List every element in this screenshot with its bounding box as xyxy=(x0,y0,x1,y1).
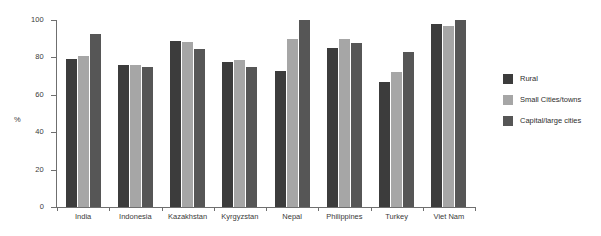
legend-item[interactable]: Rural xyxy=(503,68,599,89)
x-axis-tick xyxy=(318,207,319,211)
x-axis-tick xyxy=(162,207,163,211)
bar xyxy=(234,60,245,207)
bar xyxy=(66,59,77,207)
y-axis-tick-label: 40 xyxy=(0,128,44,136)
bar-chart: % 020406080100 IndiaIndonesiaKazakhstanK… xyxy=(0,0,601,236)
y-axis-tick-label: 80 xyxy=(0,53,44,61)
x-axis-tick xyxy=(423,207,424,211)
x-axis-tick-label: Kazakhstan xyxy=(162,212,214,221)
y-axis-tick-label: 20 xyxy=(0,166,44,174)
bar xyxy=(90,34,101,207)
bar xyxy=(78,56,89,207)
x-axis-tick xyxy=(109,207,110,211)
y-axis-title: % xyxy=(14,115,21,124)
bar-group xyxy=(57,20,109,207)
legend-item-label: Rural xyxy=(520,74,538,83)
bar-group xyxy=(423,20,475,207)
bar xyxy=(182,42,193,207)
bar xyxy=(327,48,338,207)
bar-group xyxy=(162,20,214,207)
bar xyxy=(130,65,141,207)
x-axis-tick-label: Philippines xyxy=(318,212,370,221)
x-axis-tick-label: Viet Nam xyxy=(423,212,475,221)
bar xyxy=(431,24,442,207)
legend-swatch-icon xyxy=(503,116,513,126)
legend-swatch-icon xyxy=(503,95,513,105)
x-axis-tick xyxy=(475,207,476,211)
bar xyxy=(194,49,205,207)
x-axis-tick xyxy=(266,207,267,211)
bar xyxy=(222,62,233,207)
y-axis-tick-label: 100 xyxy=(0,16,44,24)
bar xyxy=(287,39,298,207)
legend-item-label: Small Cities/towns xyxy=(520,95,581,104)
y-axis-tick-label: 60 xyxy=(0,91,44,99)
x-axis-tick xyxy=(214,207,215,211)
bar xyxy=(142,67,153,207)
legend-item-label: Capital/large cities xyxy=(520,116,581,125)
x-axis-tick-label: Turkey xyxy=(371,212,423,221)
bar-group xyxy=(318,20,370,207)
bar xyxy=(118,65,129,207)
y-axis-tick-label: 0 xyxy=(0,203,44,211)
bar xyxy=(299,20,310,207)
bar-group xyxy=(214,20,266,207)
bar xyxy=(339,39,350,207)
x-axis-tick xyxy=(371,207,372,211)
bar-group xyxy=(371,20,423,207)
bar xyxy=(379,82,390,207)
plot-area xyxy=(57,20,475,207)
bar xyxy=(455,20,466,207)
bar xyxy=(246,67,257,207)
x-axis-tick-label: Indonesia xyxy=(109,212,161,221)
bar xyxy=(403,52,414,207)
x-axis-tick-label: India xyxy=(57,212,109,221)
bar xyxy=(275,71,286,208)
bar-group xyxy=(266,20,318,207)
legend-swatch-icon xyxy=(503,74,513,84)
x-axis-tick xyxy=(57,207,58,211)
bar xyxy=(391,72,402,207)
bar-group xyxy=(109,20,161,207)
bar xyxy=(170,41,181,207)
x-axis-tick-label: Kyrgyzstan xyxy=(214,212,266,221)
chart-legend: RuralSmall Cities/townsCapital/large cit… xyxy=(503,68,599,131)
bar xyxy=(443,26,454,207)
bar xyxy=(351,43,362,207)
legend-item[interactable]: Small Cities/towns xyxy=(503,89,599,110)
legend-item[interactable]: Capital/large cities xyxy=(503,110,599,131)
x-axis-tick-label: Nepal xyxy=(266,212,318,221)
